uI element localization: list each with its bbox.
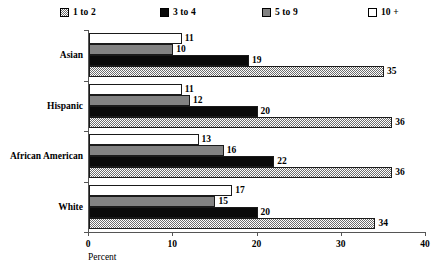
- bar-value-label: 36: [395, 117, 405, 128]
- x-axis-tick-label: 0: [86, 239, 91, 249]
- bar-value-label: 20: [261, 207, 271, 218]
- bar-value-label: 16: [227, 145, 237, 156]
- legend-swatch-gray-icon: [262, 8, 271, 17]
- bar-value-label: 15: [218, 196, 228, 207]
- x-axis-tick-label: 40: [420, 239, 430, 249]
- bar: [89, 95, 190, 106]
- bar-value-label: 10: [176, 44, 186, 55]
- bar: [89, 167, 392, 178]
- legend-swatch-checker-icon: [60, 8, 69, 17]
- y-axis-tick: [84, 81, 88, 82]
- legend-item-1-to-2[interactable]: 1 to 2: [60, 8, 96, 18]
- x-axis-tick-label: 10: [168, 239, 178, 249]
- legend-item-5-to-9[interactable]: 5 to 9: [262, 8, 298, 18]
- bar: [89, 84, 182, 95]
- legend-item-label: 10 +: [381, 8, 399, 18]
- legend-item-label: 1 to 2: [73, 8, 96, 18]
- y-axis-tick: [84, 131, 88, 132]
- x-axis-tick: [172, 232, 173, 236]
- category-label-hispanic: Hispanic: [47, 101, 83, 111]
- category-label-asian: Asian: [60, 50, 83, 60]
- x-axis-tick: [425, 232, 426, 236]
- category-axis-labels: AsianHispanicAfrican AmericanWhite: [0, 30, 88, 232]
- legend-item-10[interactable]: 10 +: [368, 8, 399, 18]
- bar: [89, 134, 199, 145]
- bar: [89, 156, 274, 167]
- x-axis-tick: [341, 232, 342, 236]
- bar-value-label: 36: [395, 167, 405, 178]
- bar-value-label: 35: [387, 66, 397, 77]
- bar: [89, 106, 258, 117]
- bar-value-label: 20: [261, 106, 271, 117]
- legend-swatch-black-icon: [160, 8, 169, 17]
- legend-item-3-to-4[interactable]: 3 to 4: [160, 8, 196, 18]
- legend-swatch-white-icon: [368, 8, 377, 17]
- legend-item-label: 3 to 4: [173, 8, 196, 18]
- bar: [89, 218, 375, 229]
- bar: [89, 66, 384, 77]
- category-label-african-american: African American: [10, 151, 83, 161]
- bar: [89, 207, 258, 218]
- bar: [89, 117, 392, 128]
- y-axis-tick: [84, 182, 88, 183]
- bar-value-label: 11: [185, 84, 194, 95]
- plot-area: 0102030401110193511122036131622361715203…: [88, 30, 425, 232]
- x-axis-tick: [257, 232, 258, 236]
- bar-value-label: 13: [202, 134, 212, 145]
- bar-value-label: 11: [185, 33, 194, 44]
- legend-item-label: 5 to 9: [275, 8, 298, 18]
- bar: [89, 44, 173, 55]
- bar-value-label: 19: [252, 55, 262, 66]
- x-axis-title: Percent: [88, 252, 117, 262]
- bar-value-label: 34: [378, 218, 388, 229]
- bar-value-label: 17: [235, 185, 245, 196]
- y-axis-tick: [84, 232, 88, 233]
- bar: [89, 145, 224, 156]
- bar-value-label: 12: [193, 95, 203, 106]
- y-axis-tick: [84, 30, 88, 31]
- x-axis-tick: [88, 232, 89, 236]
- bar-value-label: 22: [277, 156, 287, 167]
- bar-chart: 1 to 23 to 45 to 910 + AsianHispanicAfri…: [0, 0, 446, 274]
- chart-legend: 1 to 23 to 45 to 910 +: [0, 8, 446, 26]
- x-axis-tick-label: 30: [336, 239, 346, 249]
- x-axis-tick-label: 20: [252, 239, 262, 249]
- bar: [89, 185, 232, 196]
- bar: [89, 196, 215, 207]
- bar: [89, 33, 182, 44]
- category-label-white: White: [58, 202, 83, 212]
- bar: [89, 55, 249, 66]
